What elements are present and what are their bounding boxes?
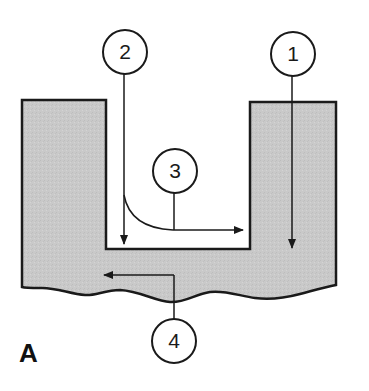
corner-curve	[124, 195, 173, 230]
substrate-body	[22, 100, 336, 302]
callout-label-4: 4	[168, 329, 180, 352]
callout-2: 2	[103, 30, 147, 244]
panel-label: A	[19, 338, 38, 368]
trench-diagram: 1 2 3 4 A	[0, 0, 369, 391]
callout-label-2: 2	[119, 40, 131, 63]
callout-3: 3	[124, 149, 243, 230]
callout-label-1: 1	[287, 42, 299, 65]
callout-label-3: 3	[169, 159, 181, 182]
